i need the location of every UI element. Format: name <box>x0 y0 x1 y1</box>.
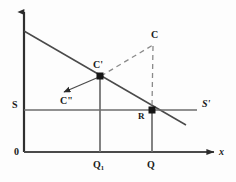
x-tick-q1-subscript: 1 <box>101 164 104 171</box>
x-tick-label-q1: Q1 <box>93 160 104 170</box>
dashed-line-cprime-to-c <box>101 45 153 76</box>
x-tick-q1-base: Q <box>93 159 101 170</box>
supply-left-label: S <box>12 100 18 110</box>
demand-curve <box>24 31 186 125</box>
point-label-c: C <box>151 30 158 40</box>
point-label-r: R <box>138 112 145 121</box>
point-marker-r <box>149 107 156 114</box>
point-label-c-prime: C' <box>93 60 103 70</box>
diagram-canvas: 0 x S S' C' C C" R Q1 Q <box>0 0 236 182</box>
origin-label: 0 <box>14 147 19 157</box>
supply-right-label: S' <box>202 99 210 109</box>
x-tick-label-q: Q <box>147 160 155 170</box>
arrow-cprime-to-cdoubleprime <box>64 77 99 92</box>
dashed-line-c-to-r <box>152 46 153 107</box>
diagram-svg <box>0 0 236 182</box>
point-marker-cprime <box>97 73 104 80</box>
x-axis-label: x <box>219 147 224 157</box>
point-label-c-double-prime: C" <box>60 96 73 106</box>
